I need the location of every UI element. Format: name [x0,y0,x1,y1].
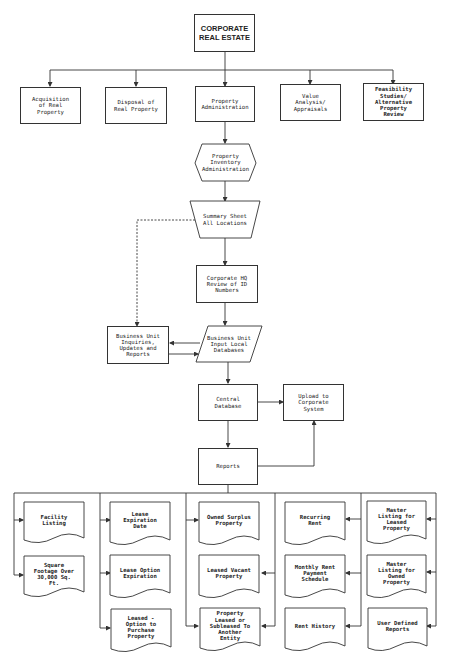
node-label: Central Database [215,396,242,408]
node-summary-sheet: Summary Sheet All Locations [195,201,255,238]
node-property-inventory-administration: Property Inventory Administration [197,144,254,181]
node-label: Disposal of Real Property [114,99,158,111]
report-label: User Defined Reports [377,620,417,632]
node-label: Acquisition of Real Property [32,96,69,115]
node-label: Property Administration [201,98,248,110]
report-label: Leased - Option to Purchase Property [126,615,156,640]
node-central-database: Central Database [198,384,258,421]
root-label: CORPORATE REAL ESTATE [199,24,250,42]
node-upload-corporate-system: Upload to Corporate System [283,384,344,421]
report-label: Master Listing for Owned Property [378,561,415,586]
node-label: Feasibility Studies/ Alternative Propert… [375,86,412,117]
node-disposal: Disposal of Real Property [105,87,167,124]
node-label: Summary Sheet All Locations [203,213,247,225]
report-label: Lease Option Expiration [120,567,160,579]
report-property-subleased: Property Leased or Subleased To Another … [200,608,260,644]
report-label: Owned Surplus Property [207,514,251,526]
report-facility-listing: Facility Listing [24,502,84,538]
node-label: Property Inventory Administration [202,153,249,172]
node-reports: Reports [198,448,258,485]
node-label: Business Unit Input Local Databases [207,335,251,354]
report-lease-option-expiration: Lease Option Expiration [110,555,170,591]
report-recurring-rent: Recurring Rent [285,502,345,538]
report-label: Monthly Rent Payment Schedule [295,564,335,583]
report-label: Rent History [295,623,335,629]
node-label: Upload to Corporate System [298,393,328,412]
node-label: Value Analysis/ Appraisals [294,93,328,112]
report-label: Square Footage Over 30,000 Sq. Ft. [34,562,74,587]
node-label: Corporate HQ Review of ID Numbers [207,275,247,294]
node-feasibility-studies: Feasibility Studies/ Alternative Propert… [363,83,424,121]
report-owned-surplus-property: Owned Surplus Property [199,502,259,538]
node-label: Reports [216,463,240,469]
node-property-administration: Property Administration [195,86,255,122]
report-leased-vacant-property: Leased Vacant Property [199,555,259,591]
report-label: Facility Listing [41,514,68,526]
report-label: Lease Expiration Date [123,511,157,530]
report-master-listing-owned: Master Listing for Owned Property [367,555,426,591]
root-corporate-real-estate: CORPORATE REAL ESTATE [194,14,255,52]
node-value-analysis: Value Analysis/ Appraisals [280,84,341,121]
report-master-listing-leased: Master Listing for Leased Property [367,501,426,537]
report-label: Recurring Rent [300,514,330,526]
node-acquisition: Acquisition of Real Property [20,87,81,124]
report-user-defined: User Defined Reports [368,608,427,644]
report-rent-history: Rent History [285,608,345,644]
report-leased-option-to-purchase: Leased - Option to Purchase Property [111,609,171,645]
org-flowchart: CORPORATE REAL ESTATE Acquisition of Rea… [0,0,452,670]
node-label: Business Unit Inquiries, Updates and Rep… [116,333,160,358]
report-monthly-rent-payment: Monthly Rent Payment Schedule [285,555,345,591]
report-square-footage: Square Footage Over 30,000 Sq. Ft. [24,556,84,592]
report-label: Property Leased or Subleased To Another … [210,610,250,641]
report-label: Master Listing for Leased Property [378,507,415,532]
node-corporate-hq-review: Corporate HQ Review of ID Numbers [196,265,258,303]
report-lease-expiration-date: Lease Expiration Date [110,502,170,538]
node-business-unit-inquiries: Business Unit Inquiries, Updates and Rep… [107,326,169,364]
report-label: Leased Vacant Property [207,567,251,579]
node-business-unit-input: Business Unit Input Local Databases [200,326,258,362]
